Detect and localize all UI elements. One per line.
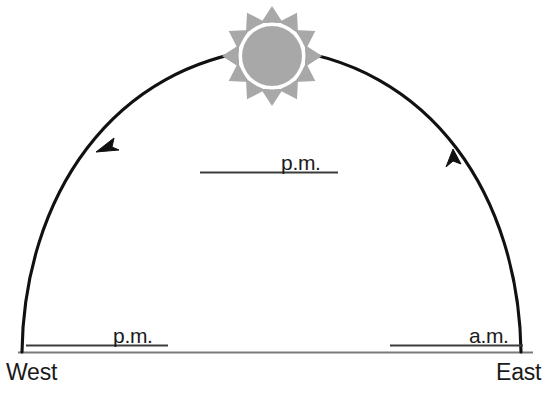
sun-disc: [242, 26, 302, 86]
label-am-lower: a.m.: [469, 325, 509, 346]
arrow-descending-west: [96, 138, 119, 152]
label-pm-upper: p.m.: [281, 152, 321, 173]
diagram-canvas: [0, 0, 550, 394]
label-west: West: [6, 361, 57, 384]
label-east: East: [496, 361, 541, 384]
sun-icon: [222, 6, 322, 106]
sun-path-diagram: p.m. p.m. a.m. West East: [0, 0, 550, 394]
label-pm-lower: p.m.: [113, 325, 153, 346]
